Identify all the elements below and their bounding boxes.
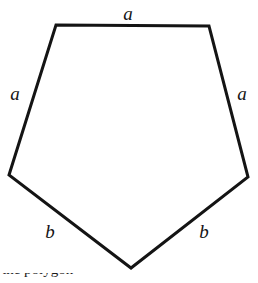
clipped-caption-row: the polygon [0,273,258,283]
figure-canvas: a a a b b the polygon [0,0,258,283]
pentagon-shape [0,0,258,283]
side-label-left-b: b [45,222,55,241]
side-label-left-a: a [10,84,20,103]
side-label-top-a: a [123,4,133,23]
clipped-caption-text: the polygon [2,273,73,277]
side-label-right-a: a [237,84,247,103]
side-label-right-b: b [199,222,209,241]
